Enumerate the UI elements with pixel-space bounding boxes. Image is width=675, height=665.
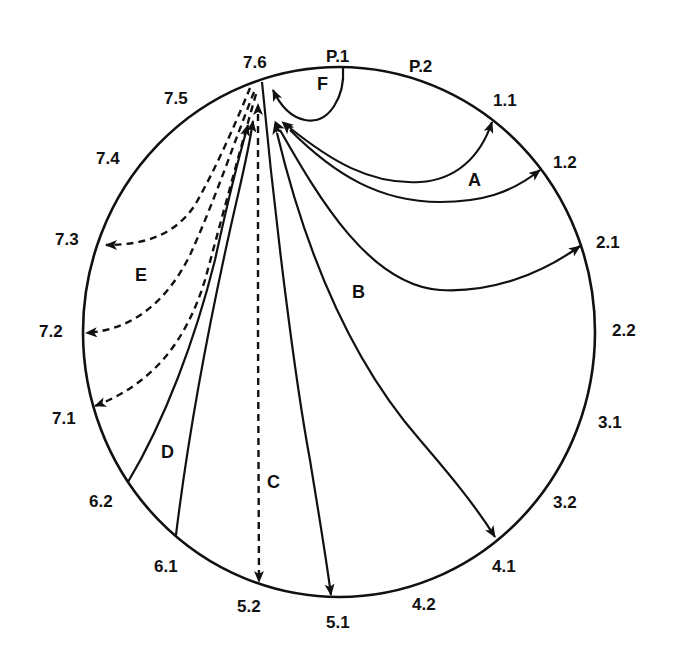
group-label-B: B	[352, 282, 365, 302]
node-label-2-1: 2.1	[596, 233, 620, 252]
group-label-C: C	[267, 472, 280, 492]
node-label-p2: P.2	[409, 57, 432, 76]
node-label-4-1: 4.1	[492, 557, 516, 576]
node-label-7-6: 7.6	[243, 53, 267, 72]
group-label-D: D	[161, 442, 174, 462]
edge-F-p1-to-76	[273, 68, 343, 121]
flow-diagram: F A B C D E P.1 P.2 1.1 1.2 2.1 2.2 3.1 …	[0, 0, 675, 665]
node-label-5-2: 5.2	[237, 597, 261, 616]
node-label-1-1: 1.1	[493, 91, 517, 110]
edge-D-61-to-76	[176, 121, 253, 535]
group-label-E: E	[135, 265, 147, 285]
node-label-p1: P.1	[326, 47, 349, 66]
node-label-7-1: 7.1	[52, 409, 76, 428]
edge-A-76-to-12	[290, 130, 540, 202]
node-label-7-2: 7.2	[39, 322, 63, 341]
node-label-4-2: 4.2	[412, 595, 436, 614]
edge-D-62-to-76	[128, 125, 248, 482]
edge-E-76-to-73-dashed	[106, 88, 250, 245]
edge-E-76-to-71-dashed	[95, 94, 256, 406]
node-label-6-1: 6.1	[154, 557, 178, 576]
group-label-F: F	[317, 74, 328, 94]
node-label-7-4: 7.4	[96, 149, 120, 168]
node-label-5-1: 5.1	[326, 613, 350, 632]
node-label-1-2: 1.2	[553, 153, 577, 172]
node-label-6-2: 6.2	[89, 492, 113, 511]
boundary-circle	[83, 67, 595, 597]
edge-C-76-to-52-dashed	[258, 114, 259, 582]
edge-A-76-to-11	[290, 122, 492, 182]
node-label-7-3: 7.3	[55, 230, 79, 249]
node-label-3-2: 3.2	[553, 493, 577, 512]
node-label-2-2: 2.2	[612, 321, 636, 340]
node-label-7-5: 7.5	[164, 89, 188, 108]
node-label-3-1: 3.1	[598, 413, 622, 432]
group-label-A: A	[468, 170, 481, 190]
